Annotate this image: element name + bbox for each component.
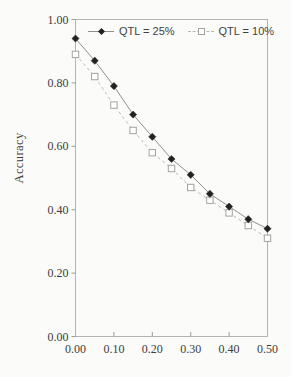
legend-label-qtl-25: QTL = 25% <box>119 25 175 37</box>
data-point-square <box>149 149 155 155</box>
x-tick-label: 0.40 <box>219 342 240 356</box>
y-tick-label: 0.20 <box>48 266 69 280</box>
x-tick-label: 0.10 <box>103 342 124 356</box>
x-tick-label: 0.20 <box>142 342 163 356</box>
chart-legend: QTL = 25% QTL = 10% <box>88 25 274 37</box>
data-point-diamond <box>226 203 233 210</box>
x-tick-label: 0.50 <box>257 342 278 356</box>
qtl-accuracy-chart: Accuracy 0.000.200.400.600.801.000.000.1… <box>0 0 291 377</box>
y-tick-label: 0.60 <box>48 139 69 153</box>
legend-dashed-line-sample <box>188 27 214 36</box>
data-point-diamond <box>245 216 252 223</box>
legend-item-qtl-10: QTL = 10% <box>188 25 275 37</box>
data-point-square <box>188 184 194 190</box>
data-point-square <box>72 51 78 57</box>
legend-label-qtl-10: QTL = 10% <box>219 25 275 37</box>
plot-canvas: 0.000.200.400.600.801.000.000.100.200.30… <box>0 0 291 377</box>
data-point-diamond <box>264 225 271 232</box>
open-square-marker-icon <box>198 28 205 35</box>
y-axis-title: Accuracy <box>12 132 27 183</box>
legend-item-qtl-25: QTL = 25% <box>88 25 175 37</box>
x-tick-label: 0.30 <box>180 342 201 356</box>
series-line-qtl-10 <box>76 54 268 238</box>
legend-solid-line-sample <box>88 27 114 36</box>
data-point-square <box>130 127 136 133</box>
series-line-qtl-25 <box>76 39 268 229</box>
data-point-square <box>264 235 270 241</box>
y-tick-label: 0.40 <box>48 203 69 217</box>
plot-frame <box>76 20 268 337</box>
data-point-square <box>207 197 213 203</box>
y-tick-label: 1.00 <box>48 13 69 27</box>
filled-diamond-marker-icon <box>97 27 104 34</box>
y-tick-label: 0.80 <box>48 76 69 90</box>
data-point-square <box>245 222 251 228</box>
data-point-square <box>92 73 98 79</box>
data-point-square <box>168 165 174 171</box>
data-point-square <box>226 210 232 216</box>
data-point-square <box>111 102 117 108</box>
x-tick-label: 0.00 <box>65 342 86 356</box>
